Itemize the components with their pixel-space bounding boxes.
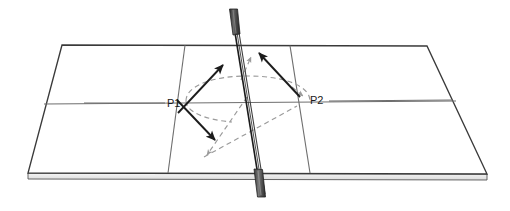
- table-top-surface: [28, 45, 487, 174]
- point-label-p1: P1: [167, 98, 180, 109]
- figure-canvas: P1 P2: [0, 0, 510, 211]
- diagram-svg: [0, 0, 510, 211]
- point-label-p2: P2: [310, 95, 323, 106]
